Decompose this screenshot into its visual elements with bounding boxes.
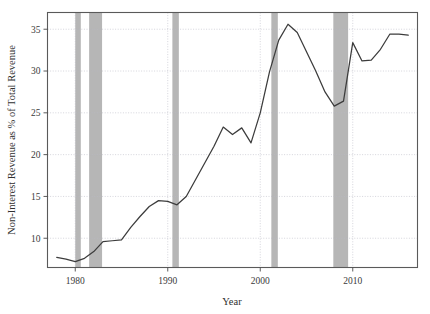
x-tick-label: 2010	[343, 276, 362, 286]
recession-band	[89, 13, 102, 268]
recession-band	[271, 13, 277, 268]
y-axis-ticks-group: 101520253035	[31, 25, 48, 244]
y-tick-label: 20	[31, 150, 41, 160]
recession-band	[172, 13, 178, 268]
x-axis-title: Year	[222, 296, 242, 307]
x-tick-label: 1980	[66, 276, 85, 286]
plot-frame	[48, 13, 418, 268]
y-tick-label: 35	[31, 25, 41, 35]
chart-figure: 101520253035 1980199020002010 Non-Intere…	[0, 0, 430, 314]
recession-band	[333, 13, 348, 268]
gridlines-group	[48, 13, 418, 268]
recession-band	[75, 13, 81, 268]
y-tick-label: 15	[31, 192, 41, 202]
y-tick-label: 30	[31, 66, 41, 76]
y-tick-label: 25	[31, 108, 41, 118]
data-series-group	[57, 24, 409, 261]
x-tick-label: 1990	[158, 276, 177, 286]
x-axis-ticks-group: 1980199020002010	[66, 268, 363, 286]
x-tick-label: 2000	[251, 276, 270, 286]
recession-bands-group	[75, 13, 348, 268]
line-chart: 101520253035 1980199020002010 Non-Intere…	[0, 0, 430, 314]
series-line	[57, 24, 409, 261]
y-axis-title: Non-Interest Revenue as % of Total Reven…	[6, 45, 17, 235]
y-tick-label: 10	[31, 234, 41, 244]
